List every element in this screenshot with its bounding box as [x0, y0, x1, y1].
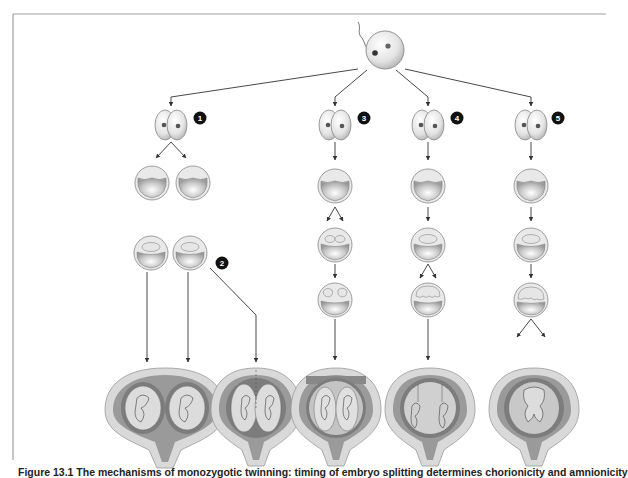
zygote-icon: [358, 22, 404, 69]
branch-connectors: [171, 69, 531, 106]
figure-caption: Figure 13.1 The mechanisms of monozygoti…: [18, 466, 608, 478]
branch-4: 4: [385, 110, 475, 466]
branch-3: 3: [291, 110, 381, 466]
svg-text:3: 3: [362, 114, 367, 123]
branch-5: 5: [489, 110, 579, 466]
svg-text:1: 1: [198, 114, 203, 123]
svg-text:2: 2: [220, 259, 225, 268]
branch-1: 1 2: [105, 110, 301, 468]
two-cell-icon: [155, 110, 187, 140]
svg-text:4: 4: [455, 114, 460, 123]
svg-text:5: 5: [556, 114, 561, 123]
